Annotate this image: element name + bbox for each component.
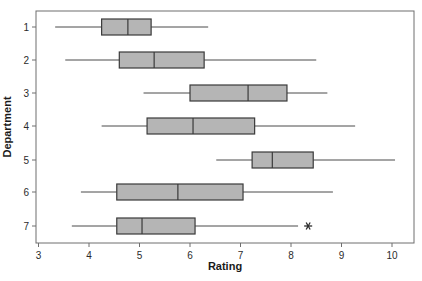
y-tick-label: 1 (23, 22, 29, 33)
box-iqr (190, 85, 287, 101)
y-tick-label: 7 (23, 221, 29, 232)
box-iqr (252, 152, 313, 168)
box-iqr (119, 52, 204, 68)
boxplot-canvas: 345678910 1234567 Rating Department (0, 0, 422, 281)
box-iqr (147, 118, 255, 134)
y-tick-label: 5 (23, 155, 29, 166)
x-tick-label: 3 (36, 250, 42, 261)
boxplot-figure: 345678910 1234567 Rating Department (0, 0, 422, 281)
y-tick-label: 2 (23, 55, 29, 66)
y-axis-title: Department (1, 96, 13, 157)
x-tick-label: 8 (288, 250, 294, 261)
y-tick-label: 3 (23, 88, 29, 99)
y-tick-label: 6 (23, 187, 29, 198)
x-tick-label: 9 (339, 250, 345, 261)
x-axis-title: Rating (208, 260, 242, 272)
box-iqr (117, 184, 243, 200)
y-tick-label: 4 (23, 121, 29, 132)
box-iqr (102, 19, 151, 35)
x-tick-label: 6 (187, 250, 193, 261)
box-iqr (117, 218, 195, 234)
x-tick-label: 4 (86, 250, 92, 261)
figure-background (0, 0, 422, 281)
x-tick-label: 5 (137, 250, 143, 261)
x-tick-label: 10 (386, 250, 398, 261)
